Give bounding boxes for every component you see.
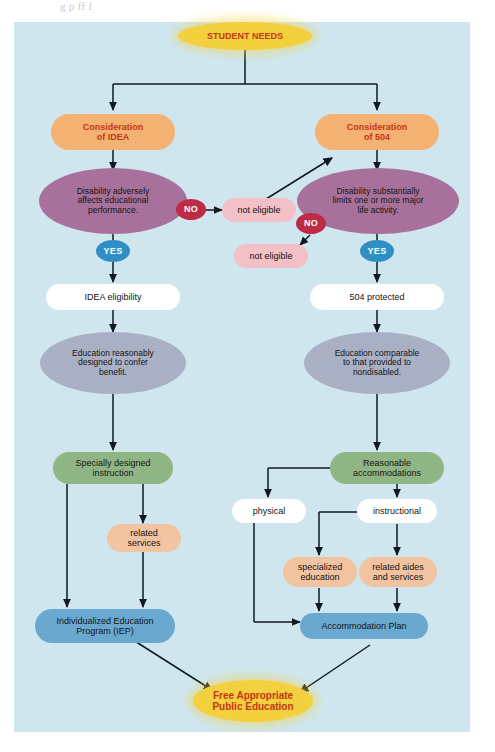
badge-no-right[interactable]: NO — [296, 213, 326, 234]
node-specialized-education[interactable]: specialized education — [283, 557, 357, 587]
node-education-comparable[interactable]: Education comparable to that provided to… — [304, 332, 450, 394]
node-reasonable-accommodations[interactable]: Reasonable accommodations — [330, 452, 444, 484]
node-reasonable-accommodations-line1: Reasonable — [359, 458, 415, 468]
node-not-eligible-idea-label: not eligible — [233, 205, 284, 215]
node-physical[interactable]: physical — [232, 499, 306, 523]
node-related-services-line1: related — [126, 528, 162, 538]
node-accommodation-plan[interactable]: Accommodation Plan — [300, 613, 428, 639]
node-related-aides-line1: related aides — [368, 562, 428, 572]
node-specially-designed-instruction[interactable]: Specially designed instruction — [53, 452, 173, 484]
node-consideration-idea-line1: Consideration — [79, 122, 148, 132]
node-consideration-of-504[interactable]: Consideration of 504 — [315, 114, 439, 150]
node-related-services-line2: services — [123, 538, 164, 548]
node-consideration-of-idea[interactable]: Consideration of IDEA — [51, 114, 175, 150]
node-student-needs-label: STUDENT NEEDS — [203, 31, 287, 41]
node-related-aides-and-services[interactable]: related aides and services — [359, 557, 437, 587]
node-consideration-504-line1: Consideration — [343, 122, 412, 132]
node-disability-adversely-line3: performance. — [84, 206, 142, 216]
node-idea-eligibility[interactable]: IDEA eligibility — [46, 284, 180, 310]
node-not-eligible-idea[interactable]: not eligible — [222, 198, 296, 222]
badge-yes-left-label: YES — [100, 246, 127, 256]
node-consideration-idea-line2: of IDEA — [93, 132, 134, 142]
badge-no-left-label: NO — [180, 204, 202, 214]
page-top-text-fragment: g p ff f — [0, 0, 495, 16]
node-iep-line2: Program (IEP) — [72, 626, 138, 636]
page-root: g p ff f — [0, 0, 495, 752]
node-instructional[interactable]: instructional — [357, 499, 437, 523]
node-specialized-education-line2: education — [296, 572, 343, 582]
node-free-appropriate-public-education[interactable]: Free Appropriate Public Education — [193, 680, 313, 722]
node-physical-label: physical — [249, 506, 290, 516]
node-consideration-504-line2: of 504 — [360, 132, 394, 142]
node-instructional-label: instructional — [369, 506, 425, 516]
node-related-services[interactable]: related services — [107, 524, 181, 552]
node-specially-designed-line2: instruction — [88, 468, 137, 478]
node-fape-line1: Free Appropriate — [209, 690, 297, 701]
badge-yes-right-label: YES — [364, 246, 391, 256]
node-idea-eligibility-label: IDEA eligibility — [80, 292, 145, 302]
node-education-reasonably-line3: benefit. — [95, 368, 131, 378]
node-education-reasonably-designed[interactable]: Education reasonably designed to confer … — [40, 332, 186, 394]
node-504-protected-label: 504 protected — [345, 292, 408, 302]
badge-no-left[interactable]: NO — [176, 199, 206, 220]
node-specialized-education-line1: specialized — [294, 562, 347, 572]
node-fape-line2: Public Education — [208, 701, 297, 712]
node-related-aides-line2: and services — [369, 572, 428, 582]
badge-yes-left[interactable]: YES — [96, 240, 130, 262]
node-iep-line1: Individualized Education — [52, 616, 157, 626]
node-specially-designed-line1: Specially designed — [71, 458, 154, 468]
node-student-needs[interactable]: STUDENT NEEDS — [178, 22, 312, 50]
node-disability-adversely-affects[interactable]: Disability adversely affects educational… — [39, 168, 187, 234]
node-not-eligible-504-label: not eligible — [245, 251, 296, 261]
badge-no-right-label: NO — [300, 218, 322, 228]
node-504-protected[interactable]: 504 protected — [310, 284, 444, 310]
node-not-eligible-504[interactable]: not eligible — [234, 244, 308, 268]
node-education-comparable-line3: nondisabled. — [349, 368, 405, 378]
badge-yes-right[interactable]: YES — [360, 240, 394, 262]
node-individualized-education-program[interactable]: Individualized Education Program (IEP) — [35, 609, 175, 643]
node-reasonable-accommodations-line2: accommodations — [349, 468, 425, 478]
node-accommodation-plan-label: Accommodation Plan — [317, 621, 410, 631]
node-disability-substantially-line3: life activity. — [354, 206, 403, 216]
